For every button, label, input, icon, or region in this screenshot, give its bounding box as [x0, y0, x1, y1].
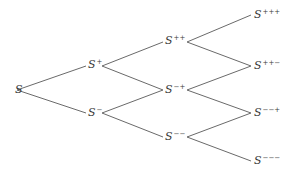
tree-edge	[17, 66, 86, 90]
node-s-minus-minus-minus: S−−−	[254, 155, 280, 166]
tree-edge	[187, 90, 251, 113]
node-s-plus-plus-minus: S++−	[254, 60, 280, 71]
tree-edge	[102, 90, 163, 113]
tree-edge	[102, 66, 163, 90]
tree-edge	[187, 15, 251, 42]
binomial-tree-diagram: S S+ S− S++ S−+ S−− S+++ S++− S−−+ S−−−	[0, 0, 286, 184]
node-s-plus-plus: S++	[165, 35, 185, 46]
tree-edge	[187, 66, 251, 90]
node-s-minus-minus-plus: S−−+	[254, 107, 280, 118]
tree-edges	[0, 0, 286, 184]
node-s: S	[15, 84, 23, 95]
tree-edge	[187, 113, 251, 137]
tree-edge	[102, 42, 163, 66]
tree-edge	[102, 113, 163, 137]
tree-edge	[187, 137, 251, 161]
node-s-plus: S+	[88, 59, 102, 70]
node-s-plus-plus-plus: S+++	[254, 9, 280, 20]
node-s-minus: S−	[88, 107, 102, 118]
node-s-minus-plus: S−+	[165, 84, 185, 95]
node-s-minus-minus: S−−	[165, 131, 185, 142]
tree-edge	[187, 42, 251, 66]
tree-edge	[17, 90, 86, 113]
